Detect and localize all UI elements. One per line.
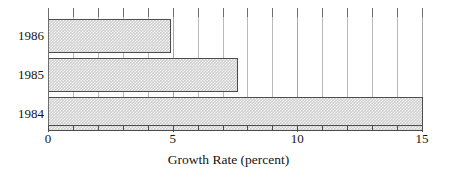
x-axis-line [48, 125, 423, 126]
x-tick [322, 125, 323, 130]
x-tick-label: 10 [291, 131, 304, 146]
category-label-1986: 1986 [8, 28, 44, 43]
x-tick [98, 125, 99, 130]
x-tick [372, 125, 373, 130]
category-label-1985: 1985 [8, 67, 44, 82]
x-tick [148, 125, 149, 130]
x-tick [198, 125, 199, 130]
x-tick-label: 15 [416, 131, 429, 146]
bars-layer [48, 8, 422, 125]
y-axis-line [48, 8, 49, 125]
bar-chart: 198619851984051015 Growth Rate (percent) [0, 0, 457, 182]
bar-1985 [48, 58, 238, 92]
x-tick [73, 125, 74, 130]
x-tick-label: 5 [169, 131, 176, 146]
x-tick [397, 125, 398, 130]
top-tick [422, 8, 423, 17]
x-tick-label: 0 [45, 131, 52, 146]
x-tick [347, 125, 348, 130]
x-tick [247, 125, 248, 130]
category-label-1984: 1984 [8, 106, 44, 121]
x-tick [223, 125, 224, 130]
bar-1986 [48, 19, 171, 53]
x-tick [272, 125, 273, 130]
x-axis-title: Growth Rate (percent) [0, 152, 457, 168]
x-tick [123, 125, 124, 130]
